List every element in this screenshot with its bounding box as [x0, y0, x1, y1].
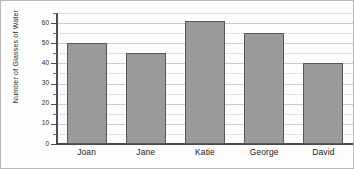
y-tick-label: 50	[29, 40, 49, 47]
y-tick-major	[51, 144, 57, 145]
y-tick-label: 20	[29, 100, 49, 107]
y-tick-label: 30	[29, 80, 49, 87]
x-tick-label-george: George	[235, 147, 294, 157]
bars-group	[57, 13, 353, 144]
x-tick-label-katie: Katie	[175, 147, 234, 157]
bar-katie	[185, 21, 225, 144]
y-tick-label: 40	[29, 60, 49, 67]
bar-joan	[67, 43, 107, 144]
bar-george	[244, 33, 284, 144]
bar-chart-image: Number of Glasses of Water 0102030405060…	[0, 0, 354, 169]
y-axis-title-text: Number of Glasses of Water	[12, 0, 19, 117]
x-axis-tick-labels: JoanJaneKatieGeorgeDavid	[57, 147, 353, 163]
bar-jane	[126, 53, 166, 144]
y-tick-label: 10	[29, 120, 49, 127]
x-tick-label-jane: Jane	[116, 147, 175, 157]
y-tick-label: 60	[29, 20, 49, 27]
x-tick-label-david: David	[294, 147, 353, 157]
bar-david	[303, 63, 343, 144]
y-tick-label: 0	[29, 141, 49, 148]
x-tick-label-joan: Joan	[57, 147, 116, 157]
